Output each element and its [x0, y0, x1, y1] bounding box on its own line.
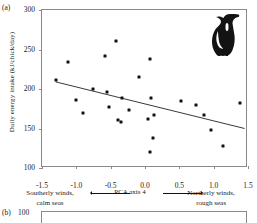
data-point — [222, 144, 225, 147]
data-point — [104, 54, 107, 57]
x-axis-tick-mark — [248, 166, 249, 169]
panel-b-y-tick-label: 100 — [18, 208, 29, 217]
data-point — [180, 99, 183, 102]
x-axis-tick-mark — [42, 166, 43, 169]
guillemot-bird-icon — [207, 12, 240, 56]
y-axis-tick-mark — [39, 50, 42, 51]
data-point — [121, 97, 124, 100]
data-point — [194, 103, 197, 106]
panel-b-partial: 100 — [0, 205, 257, 223]
data-point — [152, 114, 155, 117]
data-point — [148, 151, 151, 154]
data-point — [150, 97, 153, 100]
data-point — [203, 114, 206, 117]
x-axis-tick-mark — [111, 166, 112, 169]
panel-b-plot-frame — [41, 211, 247, 223]
y-axis-tick-label: 150 — [11, 125, 35, 133]
plot-area: 100150200250300-1.5-1.0-0.50.00.51.01.5 — [41, 9, 247, 167]
x-axis-tick-mark — [214, 166, 215, 169]
data-point — [91, 88, 94, 91]
data-point — [54, 79, 57, 82]
x-axis-annotation-left-line1: Southerly winds, — [26, 189, 73, 197]
data-point — [106, 91, 109, 94]
data-point — [127, 108, 130, 111]
y-axis-tick-label: 200 — [11, 85, 35, 93]
x-axis-tick-mark — [179, 166, 180, 169]
x-axis-annotation-right-line1: Northerly winds, — [187, 189, 234, 197]
y-axis-tick-label: 300 — [11, 6, 35, 14]
data-point — [147, 118, 150, 121]
data-point — [209, 129, 212, 132]
data-point — [75, 99, 78, 102]
x-axis-label: PCA axis 4 — [95, 188, 165, 196]
x-axis-tick-mark — [76, 166, 77, 169]
data-point — [119, 121, 122, 124]
y-axis-tick-mark — [39, 89, 42, 90]
data-point — [137, 76, 140, 79]
x-axis-tick-mark — [145, 166, 146, 169]
y-axis-tick-label: 250 — [11, 46, 35, 54]
figure-panel-a: (a) Daily energy intake (kJ/chick/day) 1… — [0, 0, 257, 223]
data-point — [238, 102, 241, 105]
scatter-chart: Daily energy intake (kJ/chick/day) 10015… — [0, 0, 257, 180]
data-point — [82, 111, 85, 114]
y-axis-tick-label: 100 — [11, 164, 35, 172]
data-point — [107, 106, 110, 109]
data-point — [115, 39, 118, 42]
y-axis-tick-mark — [39, 10, 42, 11]
data-point — [151, 136, 154, 139]
y-axis-tick-mark — [39, 129, 42, 130]
data-point — [148, 57, 151, 60]
data-point — [67, 61, 70, 64]
